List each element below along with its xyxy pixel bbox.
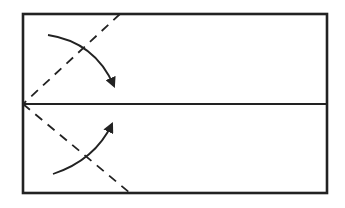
origami-diagram: [0, 0, 345, 208]
fold-arrow-up-icon: [53, 124, 112, 174]
upper-fold-line: [23, 14, 120, 104]
lower-fold-line: [23, 104, 130, 193]
fold-arrow-down-icon: [48, 35, 114, 86]
